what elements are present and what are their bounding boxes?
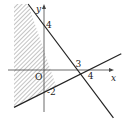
tick-label-x-3: 3 (76, 59, 82, 69)
x-axis-label: x (111, 73, 116, 83)
y-axis-label: y (35, 4, 42, 14)
x-axis-arrow-icon (109, 68, 114, 72)
tick-label-x-4: 4 (88, 71, 94, 81)
tick-label-y-neg2: -2 (47, 87, 56, 97)
origin-label: O (35, 72, 42, 82)
y-axis-arrow-icon (42, 4, 46, 9)
coordinate-diagram: yxO4-234 (0, 0, 122, 122)
tick-label-y-4: 4 (46, 20, 52, 30)
